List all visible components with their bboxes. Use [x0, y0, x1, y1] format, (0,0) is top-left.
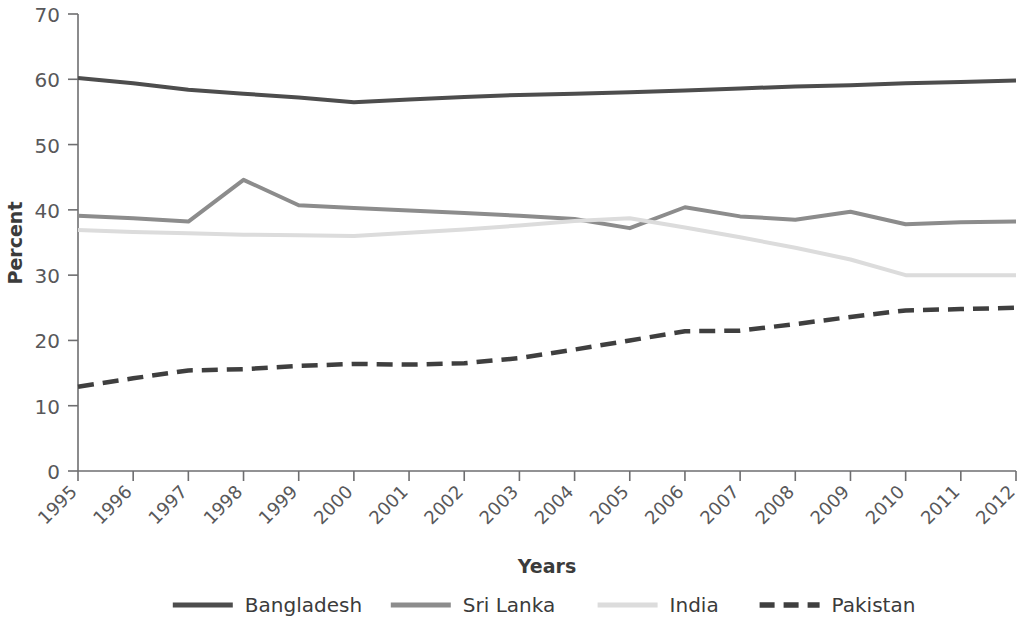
x-tick-label: 1997 — [144, 481, 191, 528]
legend-label-sri-lanka: Sri Lanka — [463, 593, 555, 617]
legend-label-india: India — [670, 593, 719, 617]
series-line-pakistan — [78, 308, 1016, 387]
x-tick-label: 2008 — [751, 481, 798, 528]
x-tick-label: 1998 — [199, 481, 246, 528]
x-axis-ticks: 1995199619971998199920002001200220032004… — [34, 471, 1019, 528]
x-tick-label: 2001 — [365, 481, 412, 528]
y-tick-label: 20 — [35, 329, 60, 353]
line-chart: 010203040506070 199519961997199819992000… — [0, 0, 1032, 620]
series-line-india — [78, 218, 1016, 275]
chart-container: 010203040506070 199519961997199819992000… — [0, 0, 1032, 620]
x-tick-label: 2012 — [972, 481, 1019, 528]
series-lines — [78, 78, 1016, 387]
y-tick-label: 60 — [35, 68, 60, 92]
legend-label-bangladesh: Bangladesh — [245, 593, 362, 617]
y-axis-ticks: 010203040506070 — [35, 3, 78, 484]
x-tick-label: 2003 — [475, 481, 522, 528]
y-tick-label: 40 — [35, 199, 60, 223]
y-tick-label: 10 — [35, 395, 60, 419]
x-tick-label: 2009 — [806, 481, 853, 528]
chart-legend: BangladeshSri LankaIndiaPakistan — [173, 593, 916, 617]
x-tick-label: 1999 — [254, 481, 301, 528]
x-tick-label: 2007 — [696, 481, 743, 528]
legend-label-pakistan: Pakistan — [832, 593, 916, 617]
x-tick-label: 2006 — [641, 481, 688, 528]
y-axis-title: Percent — [4, 202, 26, 285]
x-tick-label: 2000 — [309, 481, 356, 528]
x-tick-label: 2005 — [585, 481, 632, 528]
y-tick-label: 70 — [35, 3, 60, 27]
x-tick-label: 1996 — [89, 481, 136, 528]
x-tick-label: 1995 — [34, 481, 81, 528]
series-line-sri-lanka — [78, 180, 1016, 228]
x-tick-label: 2011 — [916, 481, 963, 528]
x-axis-title: Years — [517, 555, 576, 577]
y-tick-label: 50 — [35, 134, 60, 158]
y-tick-label: 30 — [35, 264, 60, 288]
x-tick-label: 2010 — [861, 481, 908, 528]
y-tick-label: 0 — [47, 460, 60, 484]
x-tick-label: 2002 — [420, 481, 467, 528]
x-tick-label: 2004 — [530, 481, 577, 528]
series-line-bangladesh — [78, 78, 1016, 102]
